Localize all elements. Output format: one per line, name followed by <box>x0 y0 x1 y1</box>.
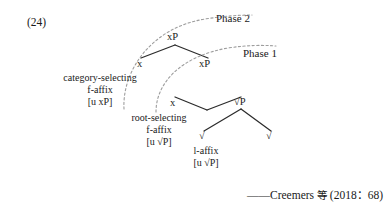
branch-root-p-to-left-root <box>204 109 241 131</box>
citation-author: Creemers <box>270 189 317 201</box>
example-number: (24) <box>27 16 46 28</box>
citation: ——Creemers 等 (2018：68) <box>247 189 383 201</box>
node-left-root: √ <box>199 130 205 141</box>
gloss-root-selecting-line2: f-affix <box>122 124 196 136</box>
gloss-category-selecting: category-selecting f-affix [u xP] <box>50 72 150 107</box>
phase-2-label: Phase 2 <box>216 13 250 25</box>
branch-inner-xp-to-inner-x <box>175 97 207 110</box>
citation-ref: (2018：68) <box>327 189 383 201</box>
citation-etal: 等 <box>317 189 327 201</box>
gloss-l-affix-line2: [u √P] <box>184 157 228 169</box>
gloss-category-selecting-line1: category-selecting <box>50 72 150 84</box>
node-inner-x: x <box>170 97 175 108</box>
node-root-xp: xP <box>167 31 178 42</box>
gloss-root-selecting: root-selecting f-affix [u √P] <box>122 112 196 147</box>
syntax-tree-figure: (24) Phase 2 Phase 1 xP x xP x √P √ √ ca… <box>0 0 391 209</box>
node-spec-x: x <box>137 58 142 69</box>
gloss-l-affix: l-affix [u √P] <box>184 145 228 169</box>
node-root-p: √P <box>234 96 246 107</box>
branch-root-xp-to-spec-x <box>141 45 175 58</box>
gloss-root-selecting-line1: root-selecting <box>122 112 196 124</box>
branch-root-xp-to-inner-xp <box>175 45 208 58</box>
gloss-category-selecting-line3: [u xP] <box>50 96 150 108</box>
node-inner-xp: xP <box>199 58 210 69</box>
phase-1-label: Phase 1 <box>243 48 277 60</box>
node-right-root: √ <box>266 130 272 141</box>
gloss-l-affix-line1: l-affix <box>184 145 228 157</box>
branch-root-p-to-right-root <box>241 109 271 131</box>
gloss-category-selecting-line2: f-affix <box>50 84 150 96</box>
citation-dash: —— <box>247 189 270 201</box>
